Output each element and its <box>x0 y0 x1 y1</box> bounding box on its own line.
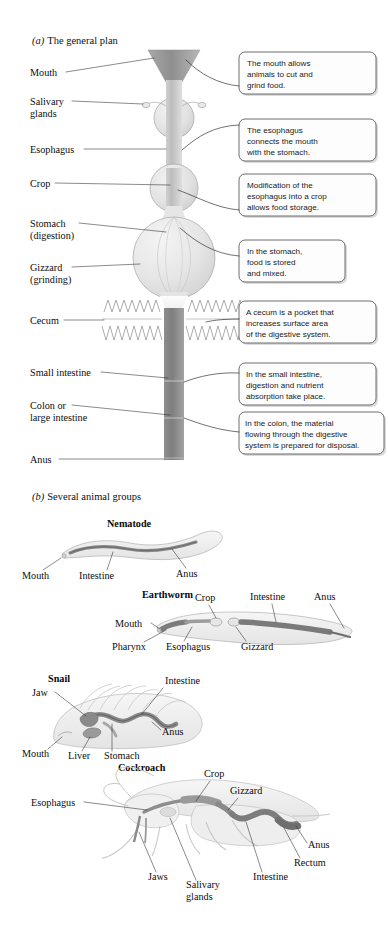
label-gizzard-line1: Gizzard <box>30 262 62 273</box>
label-cockroach-intestine: Intestine <box>253 871 289 882</box>
label-colon-line1: Colon or <box>30 400 67 411</box>
label-earthworm-mouth: Mouth <box>115 618 142 629</box>
panel-a-caption-text: The general plan <box>47 35 118 46</box>
callout-esophagus-line3: with the stomach. <box>246 148 310 157</box>
label-esophagus: Esophagus <box>30 144 74 155</box>
callout-colon-line3: system is prepared for disposal. <box>245 441 359 450</box>
species-label-earthworm: Earthworm <box>142 589 193 600</box>
esophagus-over-salivary <box>166 96 182 142</box>
label-cockroach-anus: Anus <box>308 839 330 850</box>
label-gizzard-line2: (grinding) <box>30 274 71 286</box>
nematode-mouth-shape <box>62 554 66 558</box>
callout-mouth-line2: animals to cut and <box>247 70 313 79</box>
digestive-system-figure: (a)The general plan <box>0 0 388 927</box>
callout-cecum-line3: of the digestive system. <box>246 330 331 339</box>
label-snail-liver: Liver <box>68 750 91 761</box>
label-nematode-intestine: Intestine <box>79 570 115 581</box>
callout-stomach-line2: food is stored <box>247 258 296 267</box>
figure-canvas: (a)The general plan <box>0 0 388 927</box>
label-cockroach-esophagus: Esophagus <box>31 797 75 808</box>
label-cockroach-salivary-line1: Salivary <box>186 879 221 890</box>
label-earthworm-gizzard: Gizzard <box>241 641 273 652</box>
callout-crop-line3: allows food storage. <box>247 203 319 212</box>
callout-colon-line2: flowing through the digestive <box>245 430 348 439</box>
callout-crop-line2: esophagus into a crop <box>247 192 327 201</box>
callout-mouth-line3: grind food. <box>247 81 285 90</box>
label-snail-stomach: Stomach <box>104 750 140 761</box>
label-colon-line2: large intestine <box>30 412 88 423</box>
label-anus: Anus <box>30 454 52 465</box>
label-stomach-line2: (digestion) <box>30 230 74 242</box>
label-cecum: Cecum <box>30 315 59 326</box>
callout-mouth-line1: The mouth allows <box>247 59 310 68</box>
label-mouth: Mouth <box>30 67 57 78</box>
callout-small-intestine-line3: absorption take place. <box>246 392 325 401</box>
panel-a-caption-marker: (a) <box>32 35 45 47</box>
label-cockroach-salivary-line2: glands <box>186 891 213 902</box>
label-cockroach-gizzard: Gizzard <box>230 785 262 796</box>
callout-small-intestine-line2: digestion and nutrient <box>246 381 324 390</box>
earthworm-esophagus-shape <box>186 621 210 622</box>
label-salivary-glands-line1: Salivary <box>30 96 65 107</box>
callout-small-intestine-line1: In the small intestine, <box>246 370 322 379</box>
label-snail-anus: Anus <box>162 726 184 737</box>
label-nematode-anus: Anus <box>176 568 198 579</box>
salivary-gland-right <box>198 102 206 107</box>
label-salivary-glands-line2: glands <box>30 108 57 119</box>
label-crop: Crop <box>30 178 50 189</box>
earthworm-crop-shape <box>210 618 222 626</box>
panel-b-caption-text: Several animal groups <box>47 491 141 502</box>
stomach-gizzard-sphere <box>133 217 215 299</box>
cockroach-crop-shape <box>184 799 218 803</box>
callout-colon-line1: In the colon, the material <box>245 419 334 428</box>
label-snail-jaw: Jaw <box>32 687 48 698</box>
label-earthworm-anus: Anus <box>314 591 336 602</box>
label-earthworm-crop: Crop <box>195 592 215 603</box>
callout-esophagus-line2: connects the mouth <box>247 137 318 146</box>
label-snail-intestine: Intestine <box>165 675 201 686</box>
label-stomach-line1: Stomach <box>30 218 66 229</box>
species-label-nematode: Nematode <box>107 518 152 529</box>
label-nematode-mouth: Mouth <box>22 570 49 581</box>
callout-cecum-line1: A cecum is a pocket that <box>246 308 334 317</box>
callout-cecum-line2: increases surface area <box>246 319 328 328</box>
label-cockroach-rectum: Rectum <box>294 857 326 868</box>
label-small-intestine: Small intestine <box>30 367 91 378</box>
callout-esophagus-line1: The esophagus <box>247 126 303 135</box>
label-earthworm-intestine: Intestine <box>250 591 286 602</box>
label-snail-mouth: Mouth <box>22 748 49 759</box>
callout-stomach-line3: and mixed. <box>247 269 287 278</box>
cockroach-jaws-shape-2 <box>145 818 146 843</box>
intestine-tube-shape <box>164 308 184 460</box>
salivary-gland-left <box>142 102 150 107</box>
callout-crop-line1: Modification of the <box>247 181 313 190</box>
label-earthworm-pharynx: Pharynx <box>112 641 146 652</box>
esophagus-over-crop <box>166 168 182 212</box>
panel-b-caption-marker: (b) <box>32 491 45 503</box>
callout-stomach-line1: In the stomach, <box>247 247 302 256</box>
panel-b-caption: (b)Several animal groups <box>32 491 141 503</box>
earthworm-gizzard-shape <box>228 618 240 626</box>
species-label-snail: Snail <box>48 673 70 684</box>
label-earthworm-esophagus: Esophagus <box>166 641 210 652</box>
cockroach-salivary-glands-shape <box>160 808 176 817</box>
label-cockroach-crop: Crop <box>204 768 224 779</box>
label-cockroach-jaws: Jaws <box>148 871 168 882</box>
